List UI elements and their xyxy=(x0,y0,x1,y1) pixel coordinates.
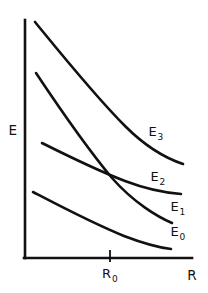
curve-e0 xyxy=(33,192,171,249)
curve-label-subscript: 0 xyxy=(179,231,185,241)
curve-label-e1: E1 xyxy=(170,200,185,217)
curve-label-base: E xyxy=(170,224,179,239)
curve-label-base: E xyxy=(150,169,159,184)
curve-label-subscript: 2 xyxy=(159,176,165,186)
curve-e2 xyxy=(42,143,181,194)
y-axis-label: E xyxy=(9,124,18,138)
curve-label-base: E xyxy=(148,124,157,139)
tick-label-subscript: 0 xyxy=(112,273,118,283)
curve-label-e0: E0 xyxy=(170,225,185,242)
x-axis-tick-label-r0: R0 xyxy=(102,267,118,284)
curve-label-base: E xyxy=(170,199,179,214)
tick-label-base: R xyxy=(102,266,111,281)
curve-label-e2: E2 xyxy=(150,170,165,187)
curve-label-e3: E3 xyxy=(148,125,163,142)
curve-label-subscript: 1 xyxy=(179,206,185,216)
figure-canvas xyxy=(0,0,208,293)
curve-e3 xyxy=(35,22,183,164)
x-axis-label: R xyxy=(187,269,197,283)
curve-label-subscript: 3 xyxy=(157,131,163,141)
energy-curves-figure: E R R0 E3 E2 E1 E0 xyxy=(0,0,208,293)
